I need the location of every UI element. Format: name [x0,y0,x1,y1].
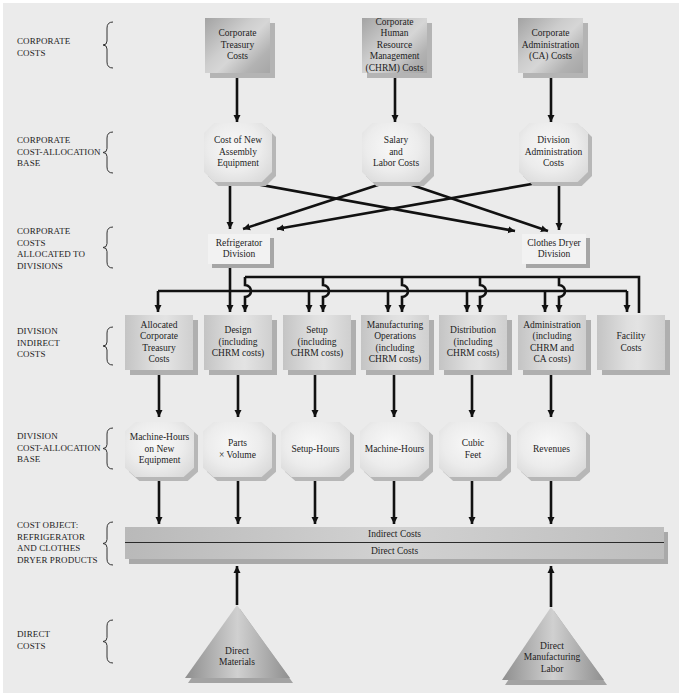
setup-hours-octagon: Setup-Hours [281,422,350,477]
octagon-label: Cubic Feet [439,422,507,477]
division-admin-base-octagon: Division Administration Costs [519,123,588,182]
machine-hours-new-equipment-octagon: Machine-Hours on New Equipment [125,422,194,477]
administration-costs-box: Administration (including CHRM and CA co… [518,315,586,370]
upper-distribution-bus [245,277,639,313]
brace-icon [103,22,113,68]
row-label-division-indirect-costs: DIVISION INDIRECT COSTS [17,326,60,361]
allocated-treasury-costs-box: Allocated Corporate Treasury Costs [125,315,193,370]
direct-materials-label: Direct Materials [219,646,255,669]
hop-arrow-to-administration [559,277,565,312]
hop-arrow-to-setup [323,277,329,312]
octagon-label: Division Administration Costs [519,123,588,182]
hop-arrow-to-manufacturing [402,277,408,312]
hop-arrow-to-design [245,277,251,312]
distribution-costs-box: Distribution (including CHRM costs) [439,315,507,370]
parts-volume-octagon: Parts × Volume [203,422,272,477]
direct-manufacturing-labor-label: Direct Manufacturing Labor [524,641,580,675]
design-costs-box: Design (including CHRM costs) [204,315,272,370]
machine-hours-octagon: Machine-Hours [360,422,429,477]
row-label-division-cost-allocation-base: DIVISION COST-ALLOCATION BASE [17,431,101,466]
salary-labor-base-octagon: Salary and Labor Costs [362,123,430,182]
manufacturing-operations-costs-box: Manufacturing Operations (including CHRM… [361,315,429,370]
clothes-dryer-division-box: Clothes Dryer Division [522,234,586,264]
brace-icons [103,22,113,663]
octagon-label: Cost of New Assembly Equipment [204,123,272,182]
octagon-label: Machine-Hours [360,422,429,477]
octagon-label: Revenues [517,422,586,477]
equipment-cost-base-octagon: Cost of New Assembly Equipment [204,123,272,182]
row-label-cost-object: COST OBJECT: REFRIGERATOR AND CLOTHES DR… [17,520,98,567]
refrigerator-division-box: Refrigerator Division [208,234,270,264]
brace-icon [103,132,113,173]
row-label-corporate-costs: CORPORATE COSTS [17,36,70,59]
octagon-label: Setup-Hours [281,422,350,477]
brace-icon [103,327,113,365]
brace-icon [103,428,113,469]
cost-object-bar: Indirect Costs Direct Costs [125,527,664,559]
revenues-octagon: Revenues [517,422,586,477]
brace-icon [103,620,113,663]
corporate-ca-costs-box: Corporate Administration (CA) Costs [518,18,583,73]
brace-icon [103,522,113,565]
row-label-corporate-costs-allocated: CORPORATE COSTS ALLOCATED TO DIVISIONS [17,226,85,273]
hop-arrow-to-distribution [480,277,486,312]
direct-costs-band: Direct Costs [125,543,664,559]
setup-costs-box: Setup (including CHRM costs) [283,315,351,370]
direct-materials-cone [185,605,293,683]
indirect-costs-band: Indirect Costs [125,527,664,543]
cost-allocation-diagram: CORPORATE COSTS CORPORATE COST-ALLOCATIO… [0,0,687,696]
row-label-direct-costs: DIRECT COSTS [17,629,50,652]
corporate-chrm-costs-box: Corporate Human Resource Management (CHR… [362,18,427,73]
brace-icon [103,227,113,268]
row-label-corporate-cost-allocation-base: CORPORATE COST-ALLOCATION BASE [17,135,101,170]
corporate-treasury-costs-box: Corporate Treasury Costs [205,18,270,73]
octagon-label: Parts × Volume [203,422,272,477]
cubic-feet-octagon: Cubic Feet [439,422,507,477]
octagon-label: Salary and Labor Costs [362,123,430,182]
octagon-label: Machine-Hours on New Equipment [125,422,194,477]
facility-costs-box: Facility Costs [597,315,665,370]
